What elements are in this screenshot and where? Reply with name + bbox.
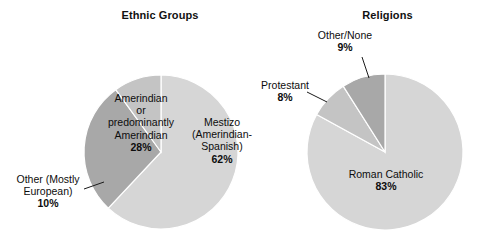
pie-label-other-none-line1: Other/None [300,29,390,41]
pie-label-other-none: Other/None 9% [300,29,390,53]
pie-label-other-european-line1: Other (Mostly [4,173,92,185]
pie-label-amerindian-percent: 28% [88,141,194,153]
pie-label-protestant-line1: Protestant [249,79,321,91]
pie-label-roman-catholic-line1: Roman Catholic [322,168,450,180]
pie-label-amerindian-line3: predominantly [88,116,194,128]
pie-label-other-european-percent: 10% [4,197,92,209]
pie-label-amerindian-line1: Amerindian [88,92,194,104]
pie-label-roman-catholic-percent: 83% [322,180,450,192]
pie-label-other-european: Other (Mostly European) 10% [4,173,92,210]
pie-label-amerindian-line4: Amerindian [88,129,194,141]
chart-canvas: Ethnic Groups Religions Mestizo (Amerind… [0,0,481,248]
pie-label-other-european-line2: European) [4,185,92,197]
pie-label-protestant: Protestant 8% [249,79,321,103]
leader-line-other-none [362,57,369,78]
pie-label-amerindian: Amerindian or predominantly Amerindian 2… [88,92,194,153]
pie-label-other-none-percent: 9% [300,41,390,53]
pie-religions [307,74,463,230]
pie-label-protestant-percent: 8% [249,91,321,103]
pie-label-mestizo-percent: 62% [176,153,268,165]
pie-label-amerindian-line2: or [88,104,194,116]
pie-label-roman-catholic: Roman Catholic 83% [322,168,450,192]
